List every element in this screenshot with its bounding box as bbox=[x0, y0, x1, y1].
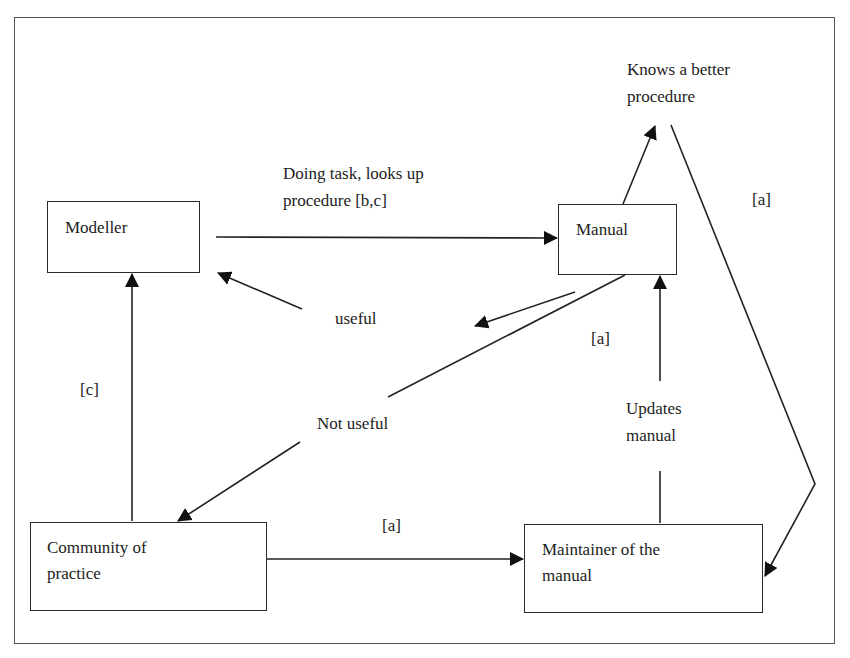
edge-manual-to-knows-better bbox=[623, 126, 655, 204]
node-community-label: Community of practice bbox=[47, 535, 147, 587]
label-useful: useful bbox=[335, 305, 377, 332]
label-a-middle: [a] bbox=[591, 325, 610, 352]
edge-manual-to-not-useful bbox=[388, 275, 625, 397]
edge-useful-to-modeller bbox=[218, 273, 302, 309]
label-knows-better-procedure: Knows a better procedure bbox=[627, 56, 730, 110]
label-a-bottom: [a] bbox=[382, 512, 401, 539]
edge-not-useful-to-community bbox=[178, 442, 300, 521]
label-c-left: [c] bbox=[80, 376, 99, 403]
node-maintainer-label: Maintainer of the manual bbox=[542, 537, 660, 589]
node-community-of-practice[interactable]: Community of practice bbox=[30, 522, 267, 611]
edge-knows-better-to-maintainer bbox=[671, 125, 815, 576]
node-modeller[interactable]: Modeller bbox=[47, 201, 200, 273]
node-manual[interactable]: Manual bbox=[558, 204, 677, 275]
label-not-useful: Not useful bbox=[317, 410, 388, 437]
node-modeller-label: Modeller bbox=[65, 215, 127, 241]
label-a-right: [a] bbox=[752, 186, 771, 213]
edge-modeller-to-manual bbox=[216, 237, 557, 238]
node-manual-label: Manual bbox=[576, 217, 628, 243]
label-updates-manual: Updates manual bbox=[626, 395, 682, 449]
node-maintainer-of-manual[interactable]: Maintainer of the manual bbox=[524, 524, 763, 613]
label-doing-task: Doing task, looks up procedure [b,c] bbox=[283, 160, 424, 214]
